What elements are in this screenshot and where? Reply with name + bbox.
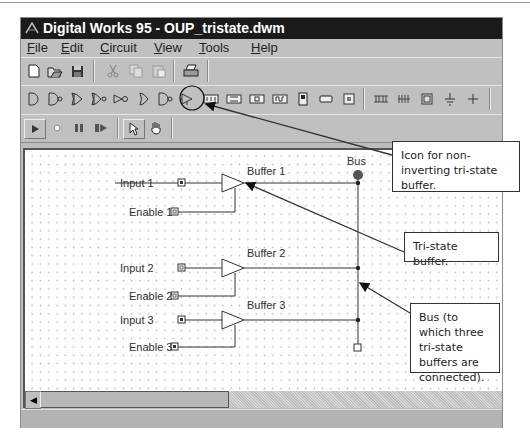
print-icon	[183, 64, 199, 78]
print-button[interactable]	[181, 62, 201, 80]
status-bar	[21, 409, 502, 428]
and-gate-icon	[27, 92, 39, 106]
buffer-1-label: Buffer 1	[247, 165, 285, 177]
menu-help[interactable]: Help	[251, 39, 278, 57]
output-terminal-button[interactable]	[417, 90, 437, 108]
page-top-rule	[0, 2, 530, 3]
menu-edit[interactable]: Edit	[61, 39, 83, 57]
hand-interact-icon	[149, 121, 163, 135]
bus-label: Bus	[347, 155, 366, 167]
select-pointer-icon	[129, 122, 139, 136]
simulation-toolbar	[21, 114, 502, 143]
output-terminal-icon	[421, 93, 433, 105]
stop-icon	[53, 124, 61, 132]
seven-segment-button[interactable]	[371, 90, 391, 108]
flip-flop-jk-icon	[203, 94, 219, 104]
callout-buffer-note: Tri-state buffer.	[404, 232, 499, 262]
stop-button[interactable]	[47, 119, 67, 137]
save-disk-icon	[71, 65, 84, 78]
nor-gate-button[interactable]	[89, 90, 109, 108]
paste-icon	[152, 64, 166, 78]
led-button[interactable]	[316, 90, 336, 108]
scroll-left-button[interactable]: ◀	[25, 391, 41, 409]
left-arrow-icon: ◀	[30, 395, 37, 405]
buffer-3-label: Buffer 3	[247, 299, 285, 311]
counter-button[interactable]	[247, 90, 267, 108]
buffer-2-label: Buffer 2	[247, 247, 285, 259]
led-icon	[319, 94, 333, 104]
pause-icon	[74, 123, 84, 133]
paste-button[interactable]	[149, 62, 169, 80]
seven-segment-icon	[373, 94, 389, 104]
clock-icon	[272, 94, 288, 104]
tristate-buffer-icon	[179, 92, 195, 106]
file-toolbar	[21, 57, 502, 86]
input-2-label: Input 2	[120, 262, 154, 274]
new-file-icon	[28, 64, 40, 78]
title-bar[interactable]: Digital Works 95 - OUP_tristate.dwm	[21, 18, 502, 39]
d-flipflop-button[interactable]	[224, 90, 244, 108]
or-gate-button[interactable]	[67, 90, 87, 108]
or-gate-icon	[71, 92, 83, 106]
run-play-icon	[30, 124, 40, 134]
input-terminal-icon	[343, 93, 355, 105]
scroll-thumb[interactable]	[40, 391, 229, 408]
menu-bar: File Edit Circuit View Tools Help	[21, 39, 502, 57]
components-toolbar	[21, 85, 502, 115]
callout-icon-note: Icon for non-inverting tri-state buffer.	[392, 141, 520, 192]
copy-icon	[129, 64, 143, 78]
enable-1-label: Enable 1	[129, 206, 172, 218]
horizontal-scrollbar[interactable]: ◀	[23, 391, 502, 408]
enable-2-label: Enable 2	[129, 290, 172, 302]
pause-button[interactable]	[69, 119, 89, 137]
window-title: Digital Works 95 - OUP_tristate.dwm	[43, 18, 285, 39]
save-button[interactable]	[67, 62, 87, 80]
open-folder-icon	[47, 65, 63, 78]
new-file-button[interactable]	[24, 62, 44, 80]
menu-tools[interactable]: Tools	[199, 39, 229, 57]
cut-button[interactable]	[103, 62, 123, 80]
input-terminal-button[interactable]	[339, 90, 359, 108]
ground-button[interactable]	[440, 90, 460, 108]
menu-file[interactable]: File	[27, 39, 48, 57]
switch-button[interactable]	[293, 90, 313, 108]
step-icon	[94, 123, 108, 133]
xor-gate-icon	[137, 92, 149, 106]
switch-icon	[298, 92, 308, 106]
nor-gate-icon	[91, 92, 107, 106]
input-3-label: Input 3	[120, 314, 154, 326]
xnor-gate-icon	[157, 92, 173, 106]
xnor-gate-button[interactable]	[155, 90, 175, 108]
bus-end-terminal	[354, 344, 361, 351]
inverter-button[interactable]	[111, 90, 131, 108]
nand-gate-icon	[47, 92, 63, 106]
nand-gate-button[interactable]	[45, 90, 65, 108]
clock-button[interactable]	[270, 90, 290, 108]
tristate-buffer-button[interactable]	[177, 90, 197, 108]
callout-icon-text: Icon for non-inverting tri-state buffer.	[401, 149, 497, 192]
memory-button[interactable]	[394, 90, 414, 108]
open-button[interactable]	[45, 62, 65, 80]
digital-works-logo-icon	[25, 22, 39, 34]
callout-bus-text: Bus (to which three tri-state buffers ar…	[419, 311, 484, 384]
ground-icon	[444, 92, 456, 106]
select-tool-button[interactable]	[123, 119, 145, 139]
counter-icon	[249, 94, 265, 104]
menu-view[interactable]: View	[154, 39, 182, 57]
inverter-icon	[113, 94, 129, 104]
and-gate-button[interactable]	[23, 90, 43, 108]
callout-bus-note: Bus (to which three tri-state buffers ar…	[410, 303, 500, 373]
input-1-label: Input 1	[120, 177, 154, 189]
menu-circuit[interactable]: Circuit	[100, 39, 137, 57]
flip-flop-d-icon	[226, 94, 242, 104]
bus-terminal-dot	[353, 170, 363, 180]
step-button[interactable]	[91, 119, 111, 137]
copy-button[interactable]	[126, 62, 146, 80]
wire-junction-button[interactable]	[463, 90, 483, 108]
run-button[interactable]	[24, 119, 46, 139]
memory-icon	[397, 94, 411, 104]
xor-gate-button[interactable]	[133, 90, 153, 108]
interact-tool-button[interactable]	[146, 119, 166, 137]
jk-flipflop-button[interactable]	[201, 90, 221, 108]
enable-3-label: Enable 3	[129, 341, 172, 353]
